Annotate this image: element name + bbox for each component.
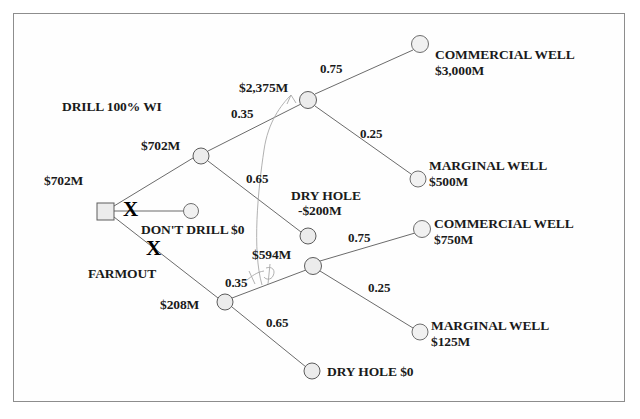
node-drill-dryhole bbox=[300, 228, 316, 244]
decision-tree-page: DRILL 100% WI $702M $702M X DON'T DRILL … bbox=[0, 0, 640, 419]
node-farmout-success bbox=[305, 258, 322, 275]
outcome-drill-commercial: COMMERCIAL WELL $3,000M bbox=[435, 47, 575, 79]
outcome-farmout-commercial: COMMERCIAL WELL $750M bbox=[434, 216, 574, 248]
branch-label-dont-drill: DON'T DRILL $0 bbox=[141, 222, 244, 237]
outcome-farmout-marginal-name: MARGINAL WELL bbox=[431, 318, 549, 334]
node-drill-success bbox=[300, 92, 317, 109]
prob-farmout-commercial: 0.75 bbox=[348, 231, 370, 246]
node-root-decision bbox=[97, 203, 114, 220]
outcome-drill-marginal: MARGINAL WELL $500M bbox=[429, 158, 547, 190]
branch-label-farmout: FARMOUT bbox=[88, 266, 156, 281]
outcome-farmout-marginal-amount: $125M bbox=[431, 334, 549, 350]
prob-farmout-dryhole: 0.65 bbox=[266, 316, 288, 331]
prob-farmout-marginal: 0.25 bbox=[368, 281, 390, 296]
eliminated-mark-dont-drill: X bbox=[123, 199, 138, 220]
node-farmout-chance bbox=[217, 294, 233, 310]
outcome-drill-commercial-amount: $3,000M bbox=[435, 63, 575, 79]
eliminated-mark-farmout: X bbox=[146, 238, 161, 259]
outcome-farmout-commercial-name: COMMERCIAL WELL bbox=[434, 216, 574, 232]
value-farmout-node: $208M bbox=[160, 297, 199, 312]
edge-drill-to-success bbox=[208, 104, 301, 151]
prob-drill-marginal: 0.25 bbox=[360, 127, 382, 142]
outcome-drill-dryhole-amount: -$200M bbox=[298, 203, 342, 218]
outcome-drill-commercial-name: COMMERCIAL WELL bbox=[435, 47, 575, 63]
edge-farmout-success-marginal bbox=[320, 271, 413, 328]
prob-drill-success: 0.35 bbox=[231, 107, 253, 122]
value-drill-node: $702M bbox=[141, 138, 180, 153]
value-farmout-success-node: $594M bbox=[252, 247, 291, 262]
outcome-farmout-commercial-amount: $750M bbox=[434, 232, 574, 248]
outcome-drill-marginal-amount: $500M bbox=[429, 174, 547, 190]
node-farmout-marginal bbox=[412, 324, 428, 340]
prob-drill-dryhole: 0.65 bbox=[246, 172, 268, 187]
value-root: $702M bbox=[44, 173, 83, 188]
value-drill-success-node: $2,375M bbox=[239, 80, 288, 95]
prob-drill-commercial: 0.75 bbox=[320, 62, 342, 77]
node-farmout-dryhole bbox=[304, 363, 320, 379]
branch-label-drill: DRILL 100% WI bbox=[62, 99, 162, 114]
node-drill-chance bbox=[193, 148, 209, 164]
node-drill-commercial bbox=[412, 36, 429, 53]
prob-farmout-success: 0.35 bbox=[225, 276, 247, 291]
node-farmout-commercial bbox=[414, 221, 431, 238]
node-drill-marginal bbox=[410, 171, 426, 187]
outcome-drill-dryhole-name: DRY HOLE bbox=[291, 188, 361, 203]
outcome-drill-marginal-name: MARGINAL WELL bbox=[429, 158, 547, 174]
outcome-farmout-dryhole-name: DRY HOLE $0 bbox=[327, 364, 413, 379]
outcome-farmout-marginal: MARGINAL WELL $125M bbox=[431, 318, 549, 350]
node-dont-drill-terminal bbox=[184, 204, 199, 219]
